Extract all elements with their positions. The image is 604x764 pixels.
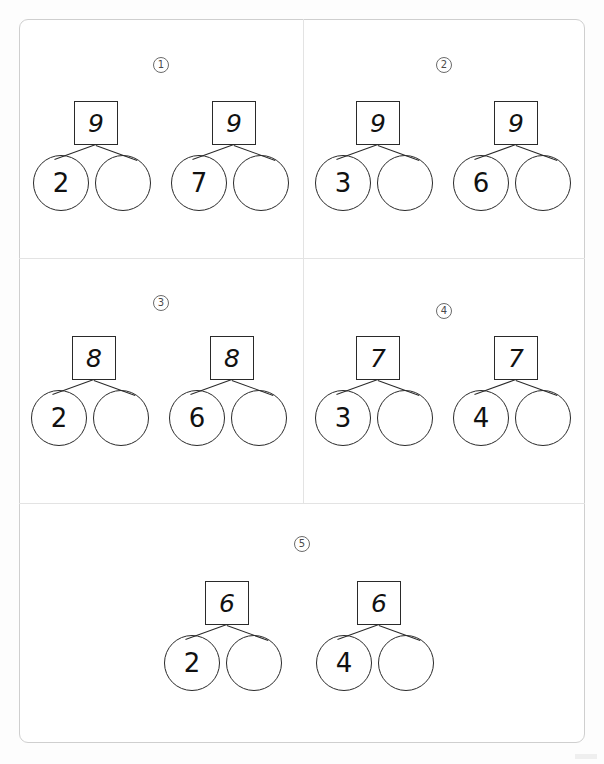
part-circle-left[interactable]: 4 [316,635,372,691]
problem-panel-1: 1 9 2 9 7 [19,19,303,258]
part-circle-left[interactable]: 4 [453,390,509,446]
whole-box[interactable]: 7 [494,336,538,380]
part-circle-right[interactable] [93,390,149,446]
number-bond-tree: 8 2 [31,336,155,451]
problem-panel-4: 4 7 3 7 4 [303,258,585,503]
whole-box[interactable]: 9 [74,101,118,145]
part-circle-right[interactable] [515,390,571,446]
part-circle-right[interactable] [95,155,151,211]
number-bond-tree: 8 6 [169,336,293,451]
part-circle-right[interactable] [377,390,433,446]
number-bond-tree: 6 2 [164,581,288,696]
number-bond-row: 6 2 6 4 [19,581,585,696]
part-circle-left[interactable]: 6 [169,390,225,446]
number-bond-row: 7 3 7 4 [303,336,585,451]
problem-number-marker: 1 [153,57,169,73]
whole-box[interactable]: 9 [494,101,538,145]
part-circle-left[interactable]: 2 [31,390,87,446]
problem-number-marker: 2 [436,57,452,73]
worksheet-page: 1 9 2 9 7 2 9 3 [0,0,604,764]
part-circle-left[interactable]: 3 [315,390,371,446]
part-circle-left[interactable]: 7 [171,155,227,211]
whole-box[interactable]: 6 [357,581,401,625]
part-circle-right[interactable] [378,635,434,691]
part-circle-right[interactable] [231,390,287,446]
number-bond-tree: 9 2 [33,101,157,216]
part-circle-left[interactable]: 2 [164,635,220,691]
whole-box[interactable]: 9 [212,101,256,145]
number-bond-tree: 9 7 [171,101,295,216]
whole-box[interactable]: 6 [205,581,249,625]
part-circle-right[interactable] [226,635,282,691]
number-bond-tree: 9 6 [453,101,577,216]
problem-number-marker: 4 [436,303,452,319]
problem-panel-5: 5 6 2 6 4 [19,503,585,743]
problem-panel-3: 3 8 2 8 6 [19,258,303,503]
part-circle-left[interactable]: 2 [33,155,89,211]
problem-number-marker: 5 [294,536,310,552]
scan-artifact [575,754,597,759]
part-circle-right[interactable] [233,155,289,211]
number-bond-row: 8 2 8 6 [19,336,303,451]
part-circle-right[interactable] [377,155,433,211]
number-bond-row: 9 3 9 6 [303,101,585,216]
number-bond-tree: 7 4 [453,336,577,451]
whole-box[interactable]: 8 [72,336,116,380]
number-bond-tree: 9 3 [315,101,439,216]
part-circle-left[interactable]: 6 [453,155,509,211]
number-bond-tree: 7 3 [315,336,439,451]
problem-number-marker: 3 [153,295,169,311]
whole-box[interactable]: 9 [356,101,400,145]
number-bond-tree: 6 4 [316,581,440,696]
part-circle-right[interactable] [515,155,571,211]
whole-box[interactable]: 7 [356,336,400,380]
number-bond-row: 9 2 9 7 [19,101,303,216]
problem-panel-2: 2 9 3 9 6 [303,19,585,258]
whole-box[interactable]: 8 [210,336,254,380]
part-circle-left[interactable]: 3 [315,155,371,211]
